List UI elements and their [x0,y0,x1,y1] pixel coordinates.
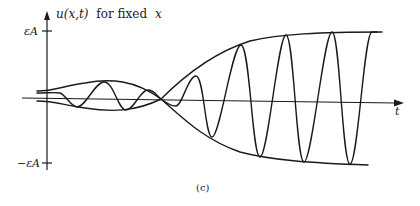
lower-envelope [37,99,368,165]
panel-label: (c) [196,182,210,193]
y-axis-label: u(x,t) for fixed x [56,7,162,21]
x-axis [22,98,404,107]
upper-envelope [37,32,382,99]
tick-lower-label: −εA [17,157,40,170]
diagram-figure: u(x,t) for fixed x εA −εA t (c) [0,0,420,206]
y-axis-label-func: u(x,t) [56,7,89,21]
tick-upper-label: εA [24,25,38,38]
x-axis-label: t [395,105,400,118]
wave-curve [37,32,377,164]
svg-text:u(x,t) for fixed: u(x,t) for fixed x [56,7,162,21]
y-axis-label-rest: for fixed [96,7,147,21]
y-axis-label-var: x [155,7,162,21]
y-axis-arrow-icon [44,11,50,20]
